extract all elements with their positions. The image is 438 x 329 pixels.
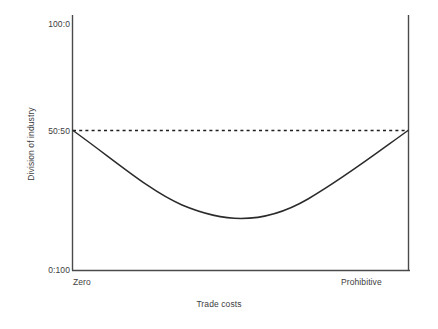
x-tick-label-prohibitive: Prohibitive: [341, 277, 382, 287]
x-axis-title: Trade costs: [0, 299, 438, 309]
y-tick-label-100-0: 100:0: [48, 19, 70, 29]
y-tick-label-0-100: 0:100: [48, 265, 70, 275]
y-tick-label-50-50: 50:50: [48, 126, 70, 136]
chart-figure: 100:0 50:50 0:100 Zero Prohibitive Trade…: [0, 0, 438, 329]
division-of-industry-curve: [73, 131, 408, 219]
y-axis-title: Division of industry: [26, 64, 36, 224]
x-tick-label-zero: Zero: [73, 277, 91, 287]
